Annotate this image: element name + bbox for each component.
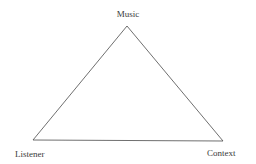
triangle-shape [0,0,256,164]
node-label-context: Context [207,149,236,158]
triangle-diagram: Music Listener Context [0,0,256,164]
node-label-listener: Listener [15,150,45,159]
edge-music-listener [33,26,127,140]
edge-context-music [127,26,223,141]
node-label-music: Music [117,10,140,19]
edge-listener-context [33,140,223,141]
